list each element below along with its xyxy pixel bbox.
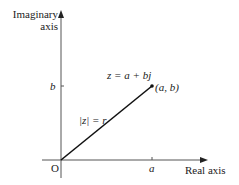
modulus-label: |z| = r — [79, 114, 107, 126]
y-axis-label-line2: axis — [40, 20, 58, 32]
point-ab — [150, 84, 154, 88]
x-axis-label: Real axis — [185, 164, 226, 176]
x-tick-label: a — [149, 162, 155, 174]
point-label: (a, b) — [155, 81, 179, 94]
imaginary-axis-arrow-icon — [58, 10, 64, 18]
real-axis-arrow-icon — [200, 157, 208, 163]
argand-diagram: Imaginary axis Real axis O a b z = a + b… — [0, 0, 239, 185]
y-axis-label-line1: Imaginary — [13, 8, 59, 20]
y-tick-label: b — [50, 80, 56, 92]
origin-label: O — [51, 162, 59, 174]
equation-label: z = a + bj — [106, 69, 151, 81]
